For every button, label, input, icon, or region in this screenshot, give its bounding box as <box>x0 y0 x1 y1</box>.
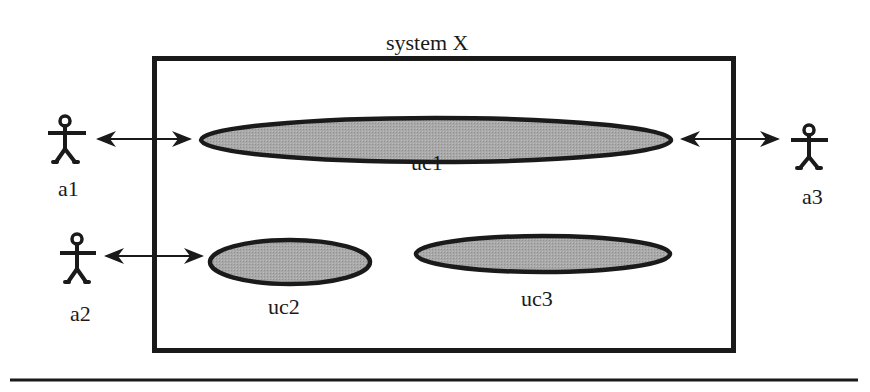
use-case-diagram: system X a1 a2 a3 uc1 uc2 uc3 <box>0 0 870 392</box>
use-case-label-uc1: uc1 <box>411 152 443 174</box>
system-boundary <box>155 59 734 351</box>
actor-label-a2: a2 <box>70 303 91 325</box>
actor-label-a3: a3 <box>802 186 823 208</box>
use-case-label-uc2: uc2 <box>268 296 300 318</box>
actor-a1-stick-figure-icon[interactable] <box>48 116 86 162</box>
use-case-uc3[interactable] <box>416 236 670 272</box>
use-case-label-uc3: uc3 <box>521 288 553 310</box>
use-case-uc2[interactable] <box>210 240 370 284</box>
diagram-canvas <box>0 0 870 392</box>
actor-a3-stick-figure-icon[interactable] <box>791 125 828 168</box>
actor-a2-stick-figure-icon[interactable] <box>60 234 96 282</box>
actor-label-a1: a1 <box>58 178 79 200</box>
system-title: system X <box>386 32 469 54</box>
